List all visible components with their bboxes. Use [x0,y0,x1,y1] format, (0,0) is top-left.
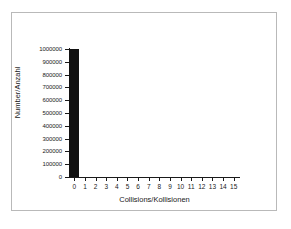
x-tick-mark [159,178,160,181]
y-tick-mark [65,177,69,178]
x-tick-mark [191,178,192,181]
x-tick-mark [202,178,203,181]
x-tick-mark [234,178,235,181]
x-tick-mark [212,178,213,181]
x-tick-mark [223,178,224,181]
x-tick-mark [74,178,75,181]
x-tick-mark [85,178,86,181]
y-tick-label: 300000 [43,136,62,142]
chart-figure: 0100000200000300000400000500000600000700… [0,0,291,229]
y-tick-label: 0 [59,174,62,180]
y-tick-label: 100000 [43,161,62,167]
y-tick-label: 900000 [43,59,62,65]
plot-area [69,49,239,177]
x-axis-title: Collisions/Kollisionen [69,195,240,204]
x-tick-mark [106,178,107,181]
x-tick-mark [117,178,118,181]
x-tick-mark [138,178,139,181]
y-tick-label: 700000 [43,84,62,90]
x-tick-mark [127,178,128,181]
x-axis-line [69,177,240,178]
y-tick-label: 200000 [43,148,62,154]
bar [69,49,79,177]
y-axis-title: Number/Anzahl [13,38,22,148]
y-tick-label: 1000000 [39,46,62,52]
x-tick-mark [149,178,150,181]
x-tick-mark [96,178,97,181]
x-tick-mark [181,178,182,181]
y-tick-label: 500000 [43,110,62,116]
y-tick-label: 800000 [43,72,62,78]
y-tick-label: 400000 [43,123,62,129]
x-tick-mark [170,178,171,181]
x-tick-label: 15 [227,183,241,190]
y-tick-label: 600000 [43,97,62,103]
